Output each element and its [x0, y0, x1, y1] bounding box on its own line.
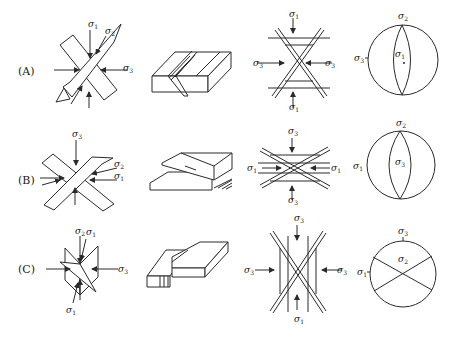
row-a-conjugate-faults	[257, 18, 332, 108]
c-stereo-center: σ2	[398, 255, 408, 265]
c-stress-sigma2: σ2	[75, 227, 85, 237]
b-stereo-left: σ1	[353, 162, 363, 172]
b-stress-sigma2: σ2	[114, 160, 124, 170]
a-stereo-center: σ1	[395, 50, 405, 60]
b-stereo-center: σ3	[395, 158, 405, 168]
b-stress-sigma3: σ3	[72, 130, 82, 140]
row-a-block-diagram	[152, 51, 231, 96]
a-stereo-top: σ2	[398, 12, 408, 22]
row-label-c: (C)	[18, 264, 35, 275]
c-conj-left: σ3	[244, 266, 254, 276]
c-conj-top: σ3	[294, 214, 304, 224]
a-conj-top: σ1	[289, 10, 299, 20]
c-stereo-top: σ3	[398, 227, 408, 237]
c-conj-right: σ3	[337, 266, 347, 276]
c-stress-sigma1-bottom: σ1	[66, 306, 76, 316]
b-conj-right: σ1	[331, 164, 341, 174]
b-stereo-top: σ2	[396, 119, 406, 129]
row-c-stereonet	[367, 237, 436, 307]
row-a-stress-planes	[54, 24, 128, 108]
c-stress-sigma1-top: σ1	[86, 228, 96, 238]
c-stress-sigma3: σ3	[118, 265, 128, 275]
b-conj-left: σ1	[247, 164, 257, 174]
a-conj-left: σ3	[253, 59, 263, 69]
b-conj-top: σ3	[288, 127, 298, 137]
a-stress-sigma3: σ3	[123, 64, 133, 74]
row-b-stress-planes	[40, 140, 117, 211]
a-stereo-left: σ3	[354, 54, 364, 64]
b-stress-sigma1: σ1	[114, 172, 124, 182]
c-stereo-left: σ1	[357, 268, 367, 278]
c-conj-bottom: σ1	[294, 315, 304, 325]
row-label-a: (A)	[18, 66, 35, 77]
fault-diagram	[0, 0, 453, 343]
row-b-conjugate-faults	[258, 138, 330, 200]
row-b-block-diagram	[150, 153, 232, 190]
row-c-conjugate-faults	[255, 225, 342, 313]
b-conj-bottom: σ3	[288, 196, 298, 206]
row-a-stereonet	[365, 25, 438, 95]
a-conj-right: σ3	[325, 59, 335, 69]
a-conj-bottom: σ1	[289, 103, 299, 113]
a-stress-sigma1: σ1	[88, 20, 98, 30]
row-c-block-diagram	[147, 242, 228, 287]
row-label-b: (B)	[18, 175, 35, 186]
row-c-stress-planes	[46, 236, 118, 303]
a-stress-sigma2: σ2	[105, 27, 115, 37]
